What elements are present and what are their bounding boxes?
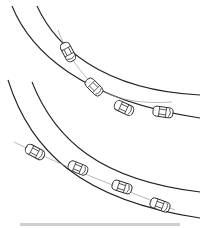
- figure-caption: [20, 219, 185, 228]
- top-outer-lane-line: [12, 6, 200, 118]
- bottom-car-3: [111, 179, 133, 195]
- bottom-inner-lane-line: [32, 82, 200, 192]
- top-scenario: [12, 6, 200, 118]
- bottom-scenario: [8, 80, 200, 218]
- bottom-car-2: [67, 160, 89, 177]
- top-trajectory: [58, 30, 172, 103]
- top-car-2: [83, 76, 104, 97]
- top-car-4: [152, 106, 173, 119]
- bottom-car-4: [149, 197, 171, 213]
- road-curve-diagram: [0, 0, 203, 228]
- top-car-1: [59, 41, 77, 63]
- caption-unreadable-placeholder: [20, 223, 180, 226]
